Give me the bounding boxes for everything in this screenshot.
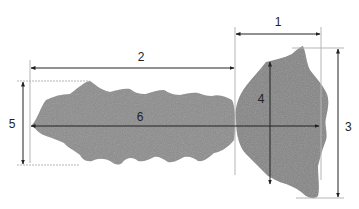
specimen-body — [32, 81, 235, 164]
dimension-label-6: 6 — [137, 110, 144, 124]
dimension-label-3: 3 — [345, 120, 352, 134]
specimen-shape — [32, 46, 328, 198]
dimension-5: 5 — [9, 82, 23, 164]
dimension-label-4: 4 — [258, 92, 265, 106]
dimension-label-2: 2 — [138, 50, 145, 64]
dimension-3: 3 — [338, 49, 352, 197]
dimension-label-5: 5 — [9, 117, 16, 131]
dimension-1: 1 — [236, 15, 320, 34]
specimen-head — [235, 46, 328, 198]
specimen-diagram: 2 1 5 6 4 3 — [0, 0, 359, 209]
dimension-2: 2 — [31, 50, 234, 68]
dimension-label-1: 1 — [275, 15, 282, 29]
